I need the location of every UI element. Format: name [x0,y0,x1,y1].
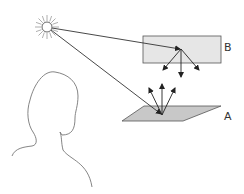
sun-icon [35,15,59,39]
diagram-canvas [0,0,244,194]
surface-a-plane [122,106,221,121]
person-silhouette [12,72,92,187]
label-b: B [224,41,232,54]
label-a: A [224,110,232,123]
